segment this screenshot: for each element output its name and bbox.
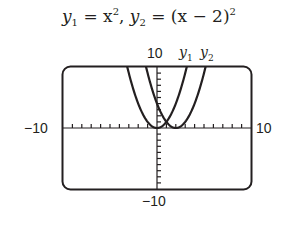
curve-y2 — [110, 0, 223, 128]
graph-plot — [0, 0, 288, 225]
curve-y1 — [110, 0, 223, 128]
